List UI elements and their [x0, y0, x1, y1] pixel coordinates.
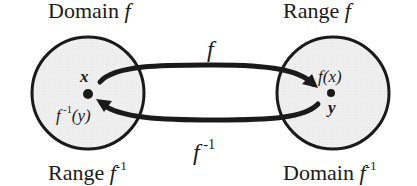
point-label-x: x [80, 67, 89, 87]
point-label-fx: f(x) [318, 67, 342, 87]
label-fn: f [124, 0, 130, 23]
point-y-dot [327, 89, 335, 97]
label-fn: f [345, 0, 351, 23]
label-text: Domain [48, 0, 124, 23]
label-fn: f [193, 139, 200, 165]
point-label-y: y [328, 98, 336, 118]
label-exp: -1 [116, 158, 127, 173]
label-text: Range [48, 160, 110, 185]
label-domain-f: Domain f [48, 0, 131, 24]
label-exp: -1 [366, 158, 377, 173]
arrow-label-f: f [207, 36, 214, 63]
label-arg: (y) [72, 106, 91, 125]
label-range-f: Range f [283, 0, 351, 24]
point-label-f-inverse-y: f -1(y) [56, 104, 91, 126]
point-x-dot [83, 89, 93, 99]
label-exp: -1 [61, 104, 72, 115]
label-text: Range [283, 0, 345, 23]
label-domain-f-inverse: Domain f-1 [283, 158, 377, 186]
arrow-label-f-inverse: f -1 [193, 136, 215, 166]
label-range-f-inverse: Range f-1 [48, 158, 127, 186]
label-exp: -1 [200, 136, 216, 152]
label-text: Domain [283, 160, 359, 185]
